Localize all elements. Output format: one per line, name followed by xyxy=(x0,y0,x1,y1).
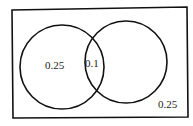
venn-diagram: 0.25 0.1 0.25 xyxy=(0,0,193,126)
region-intersection-label: 0.1 xyxy=(85,57,99,69)
region-a-only-label: 0.25 xyxy=(45,59,65,71)
region-outside-label: 0.25 xyxy=(158,98,178,110)
